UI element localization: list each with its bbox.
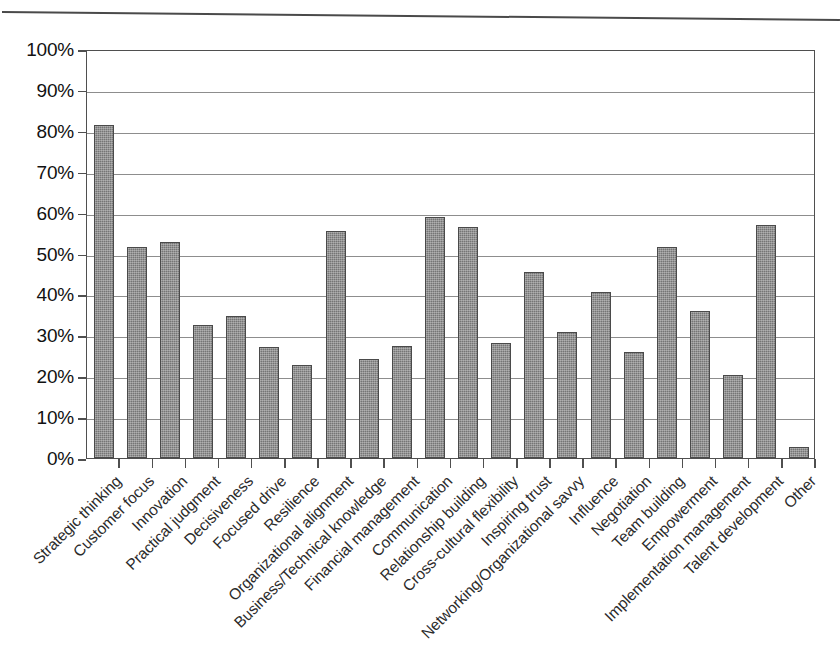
y-axis-tick-mark (78, 173, 86, 175)
y-axis-tick-mark (78, 214, 86, 216)
x-axis-tick-mark (615, 459, 617, 468)
y-axis-tick-label: 70% (0, 163, 74, 182)
x-axis-category-label: Networking/Organizational savvy (419, 473, 588, 642)
x-axis-tick-mark (748, 459, 750, 468)
bar (160, 242, 180, 458)
x-axis-category-label: Innovation (129, 473, 190, 534)
x-axis-category-label: Organizational alignment (225, 473, 356, 604)
x-axis-category-label: Decisiveness (181, 473, 256, 548)
y-axis-tick-label: 30% (0, 326, 74, 345)
y-axis-tick-label: 0% (0, 449, 74, 468)
y-axis-tick-mark (78, 418, 86, 420)
x-axis-category-label: Talent development (682, 473, 787, 578)
x-axis-tick-mark (284, 459, 286, 468)
x-axis-category-label: Strategic thinking (30, 473, 124, 567)
bar (359, 359, 379, 458)
x-axis-category-label: Communication (369, 473, 456, 560)
x-axis-tick-mark (682, 459, 684, 468)
bar (425, 217, 445, 458)
bar (491, 343, 511, 458)
y-axis-tick-mark (78, 459, 86, 461)
x-axis-tick-mark (483, 459, 485, 468)
x-axis-tick-mark (185, 459, 187, 468)
x-axis-tick-mark (450, 459, 452, 468)
y-axis-tick-label: 100% (0, 40, 74, 59)
x-axis-tick-mark (118, 459, 120, 468)
x-axis-tick-mark (317, 459, 319, 468)
bar (624, 352, 644, 458)
bar (94, 125, 114, 458)
bar (789, 447, 809, 458)
x-axis-category-label: Negotiation (588, 473, 654, 539)
plot-area (86, 50, 815, 459)
bar (259, 347, 279, 458)
x-axis-tick-mark (649, 459, 651, 468)
bar (193, 325, 213, 458)
x-axis-category-label: Other (781, 473, 819, 511)
bar-series (87, 51, 814, 458)
x-axis-category-label: Business/Technical knowledge (231, 473, 389, 631)
x-axis-tick-mark (383, 459, 385, 468)
x-axis-category-label: Influence (566, 473, 621, 528)
y-axis-tick-label: 60% (0, 204, 74, 223)
bar (690, 311, 710, 458)
y-axis-labels: 100%90%80%70%60%50%40%30%20%10%0% (0, 50, 74, 459)
x-axis-category-label: Customer focus (70, 473, 157, 560)
x-axis-tick-mark (781, 459, 783, 468)
x-axis-tick-mark (218, 459, 220, 468)
x-axis-category-label: Implementation management (602, 473, 754, 625)
y-axis-tick-mark (78, 132, 86, 134)
x-axis-category-label: Inspiring trust (479, 473, 555, 549)
x-axis-category-label: Cross-cultural flexibility (400, 473, 522, 595)
x-axis-tick-mark (251, 459, 253, 468)
y-axis-tick-mark (78, 336, 86, 338)
bar (723, 375, 743, 458)
x-axis-category-label: Relationship building (377, 473, 488, 584)
y-axis-tick-label: 90% (0, 81, 74, 100)
x-axis-tick-mark (516, 459, 518, 468)
bar (127, 247, 147, 458)
y-axis-tick-label: 80% (0, 122, 74, 141)
y-axis-tick-label: 40% (0, 285, 74, 304)
bar (756, 225, 776, 458)
x-axis-category-label: Team building (609, 473, 687, 551)
x-axis-category-label: Resilience (262, 473, 323, 534)
top-horizontal-rule (2, 11, 840, 21)
x-axis-tick-mark (582, 459, 584, 468)
y-axis-tick-label: 50% (0, 245, 74, 264)
y-axis-tick-mark (78, 91, 86, 93)
x-axis-tick-mark (814, 459, 816, 468)
y-axis-tick-mark (78, 255, 86, 257)
x-axis-category-label: Focused drive (210, 473, 289, 552)
x-axis-tick-mark (715, 459, 717, 468)
x-axis-ticks (86, 459, 815, 469)
bar (591, 292, 611, 458)
bar (326, 231, 346, 458)
bar (392, 346, 412, 458)
x-axis-category-label: Practical judgment (123, 473, 223, 573)
bar (557, 332, 577, 458)
x-axis-category-label: Empowerment (639, 473, 720, 554)
x-axis-tick-mark (549, 459, 551, 468)
y-axis-tick-mark (78, 295, 86, 297)
x-axis-tick-mark (152, 459, 154, 468)
bar (458, 227, 478, 458)
y-axis-tick-mark (78, 377, 86, 379)
x-axis-tick-mark (417, 459, 419, 468)
x-axis-tick-mark (350, 459, 352, 468)
y-axis-tick-label: 20% (0, 367, 74, 386)
x-axis-category-label: Financial management (301, 473, 422, 594)
bar-chart-figure: 100%90%80%70%60%50%40%30%20%10%0% Strate… (0, 0, 840, 651)
bar (657, 247, 677, 458)
bar (292, 365, 312, 458)
y-axis-tick-mark (78, 50, 86, 52)
bar (524, 272, 544, 459)
bar (226, 316, 246, 458)
y-axis-tick-label: 10% (0, 408, 74, 427)
